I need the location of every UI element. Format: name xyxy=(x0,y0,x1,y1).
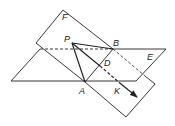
label-k: K xyxy=(114,87,120,96)
label-a: A xyxy=(79,87,85,96)
label-e: E xyxy=(147,53,153,62)
diagram-canvas xyxy=(0,0,175,126)
plane-e-outline xyxy=(11,49,166,81)
hidden-line-b xyxy=(113,49,145,76)
arrow-vector xyxy=(121,84,137,97)
label-f: F xyxy=(62,13,68,22)
label-b: B xyxy=(113,39,119,48)
label-p: P xyxy=(64,35,70,44)
plane-f-lower xyxy=(85,76,155,117)
plane-f-outline xyxy=(36,10,113,82)
geometry-diagram: F P B E D A K xyxy=(0,0,175,126)
label-d: D xyxy=(104,59,111,68)
